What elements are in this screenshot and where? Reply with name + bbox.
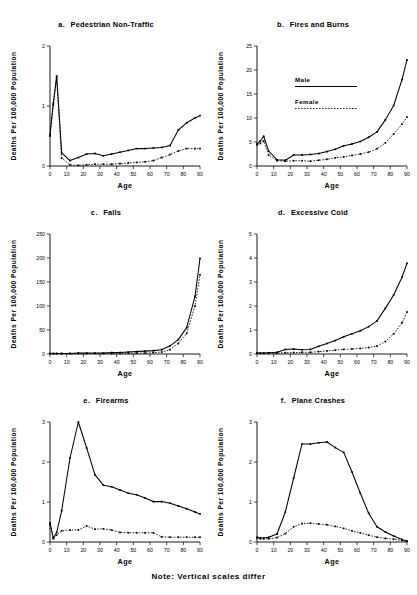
data-point-b-male-27 [301, 154, 303, 156]
ytick-c-150: 150 [36, 279, 45, 285]
data-point-a-male-77 [177, 129, 179, 131]
data-point-f-female-32 [309, 522, 311, 524]
ytick-c-50: 50 [39, 327, 45, 333]
data-point-b-female-90 [406, 116, 408, 118]
data-point-f-male-12 [276, 533, 278, 535]
xtick-e-80: 80 [180, 547, 186, 553]
xtick-d-10: 10 [271, 359, 277, 365]
data-point-f-female-52 [343, 528, 345, 530]
data-point-b-female-47 [334, 157, 336, 159]
data-point-d-male-62 [359, 330, 361, 332]
data-point-c-female-22 [86, 353, 88, 355]
data-point-f-female-0 [256, 537, 258, 539]
plot-area-a: 0102030405060708090012Deaths Per 100,000… [4, 20, 208, 200]
x-axis-title-b: Age [324, 181, 339, 190]
data-point-e-male-67 [161, 501, 163, 503]
ytick-d-1: 1 [249, 327, 252, 333]
data-point-f-female-90 [406, 540, 408, 542]
data-point-f-female-77 [384, 538, 386, 540]
data-point-b-female-27 [301, 160, 303, 162]
data-point-e-male-82 [186, 508, 188, 510]
data-point-b-female-62 [359, 153, 361, 155]
xtick-b-40: 40 [321, 171, 327, 177]
ytick-d-4: 4 [249, 255, 252, 261]
data-point-e-male-7 [61, 510, 63, 512]
data-point-a-male-82 [186, 122, 188, 124]
data-point-f-female-47 [334, 526, 336, 528]
series-line-c-female [50, 275, 200, 354]
legend-label-male: Male [295, 76, 311, 83]
data-point-a-female-42 [119, 163, 121, 165]
data-point-e-female-52 [136, 532, 138, 534]
xtick-f-40: 40 [321, 547, 327, 553]
data-point-a-female-77 [177, 150, 179, 152]
data-point-e-female-17 [77, 529, 79, 531]
data-point-e-female-12 [69, 529, 71, 531]
data-point-a-female-22 [86, 164, 88, 166]
panel-name-c: Falls [103, 208, 121, 217]
xtick-a-0: 0 [49, 171, 52, 177]
data-point-f-male-7 [268, 536, 270, 538]
data-point-f-male-22 [293, 477, 295, 479]
data-point-f-male-72 [376, 526, 378, 528]
data-point-e-male-17 [77, 421, 79, 423]
ytick-b-25: 25 [246, 43, 252, 49]
chart-panel-b: b. Fires and Burns0102030405060708090051… [211, 20, 415, 200]
xtick-c-60: 60 [147, 359, 153, 365]
plot-area-c: 0102030405060708090050100150200250Deaths… [4, 208, 208, 388]
data-point-e-male-4 [56, 532, 58, 534]
data-point-d-male-72 [376, 320, 378, 322]
y-axis-title-b: Deaths Per 100,000 Population [217, 51, 225, 160]
xtick-b-90: 90 [404, 171, 410, 177]
ytick-f-3: 3 [249, 419, 252, 425]
panel-title-d: d. Excessive Cold [211, 208, 415, 217]
data-point-b-male-42 [326, 151, 328, 153]
xtick-a-50: 50 [130, 171, 136, 177]
data-point-a-female-67 [161, 157, 163, 159]
xtick-f-30: 30 [304, 547, 310, 553]
data-point-d-male-57 [351, 333, 353, 335]
data-point-e-male-37 [111, 486, 113, 488]
data-point-c-female-72 [169, 349, 171, 351]
data-point-d-male-47 [334, 340, 336, 342]
data-point-d-male-22 [293, 348, 295, 350]
ytick-c-100: 100 [36, 303, 45, 309]
data-point-e-male-90 [199, 513, 201, 515]
plot-area-e: 01020304050607080900123Deaths Per 100,00… [4, 396, 208, 576]
data-point-c-female-47 [127, 352, 129, 354]
ytick-b-15: 15 [246, 91, 252, 97]
panel-letter-c: c. [91, 208, 98, 217]
data-point-a-female-27 [94, 163, 96, 165]
xtick-a-10: 10 [64, 171, 70, 177]
data-point-c-female-57 [144, 352, 146, 354]
data-point-e-male-32 [102, 484, 104, 486]
data-point-d-female-22 [293, 352, 295, 354]
data-point-a-male-27 [94, 153, 96, 155]
data-point-d-female-2 [259, 352, 261, 354]
xtick-d-40: 40 [321, 359, 327, 365]
data-point-d-male-17 [284, 349, 286, 351]
data-point-f-female-82 [393, 538, 395, 540]
data-point-d-female-27 [301, 351, 303, 353]
chart-panel-d: d. Excessive Cold01020304050607080900123… [211, 208, 415, 388]
data-point-d-female-57 [351, 348, 353, 350]
data-point-d-female-77 [384, 341, 386, 343]
chart-panel-f: f. Plane Crashes01020304050607080900123D… [211, 396, 415, 576]
data-point-c-male-87 [194, 296, 196, 298]
xtick-b-80: 80 [387, 171, 393, 177]
data-point-b-female-2 [259, 143, 261, 145]
data-point-b-male-37 [318, 153, 320, 155]
data-point-e-female-67 [161, 536, 163, 538]
data-point-f-male-82 [393, 535, 395, 537]
data-point-e-male-42 [119, 489, 121, 491]
data-point-d-female-87 [401, 322, 403, 324]
xtick-f-60: 60 [354, 547, 360, 553]
data-point-c-male-62 [152, 350, 154, 352]
data-point-b-male-22 [293, 154, 295, 156]
data-point-e-female-42 [119, 532, 121, 534]
xtick-a-80: 80 [180, 171, 186, 177]
data-point-d-male-32 [309, 349, 311, 351]
data-point-a-female-47 [127, 162, 129, 164]
xtick-f-20: 20 [287, 547, 293, 553]
data-point-d-female-37 [318, 351, 320, 353]
